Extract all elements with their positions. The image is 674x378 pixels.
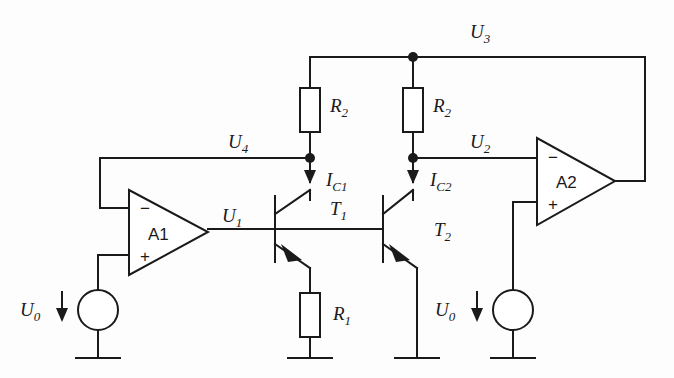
- transistor-t2: [383, 190, 417, 358]
- a2-minus-sign: −: [548, 148, 558, 167]
- a1-label: A1: [148, 225, 169, 244]
- node-u3: [408, 52, 418, 62]
- a2-plus-sign: +: [548, 195, 558, 214]
- label-u0-left: U0: [20, 299, 41, 324]
- label-u4: U4: [228, 131, 249, 156]
- label-ic1: IC1: [325, 169, 348, 194]
- a2-label: A2: [556, 173, 577, 192]
- current-arrow-ic2: [407, 158, 419, 184]
- label-r1: R1: [332, 303, 351, 328]
- current-arrow-ic1: [304, 158, 316, 184]
- label-t1: T1: [330, 198, 347, 223]
- voltage-source-u0-left: [56, 290, 120, 358]
- a1-minus-sign: −: [140, 199, 150, 218]
- voltage-source-u0-right: [471, 290, 535, 358]
- a1-plus-sign: +: [140, 247, 150, 266]
- label-u0-right: U0: [435, 299, 456, 324]
- u2-net: [408, 153, 537, 163]
- circuit-schematic: − + A1 − + A2: [0, 0, 674, 378]
- resistor-r2-left: [300, 88, 320, 158]
- resistor-r1: [300, 293, 320, 358]
- label-u3: U3: [470, 21, 491, 46]
- label-u2: U2: [470, 131, 491, 156]
- label-r2-right: R2: [432, 95, 452, 120]
- circuit-diagram-canvas: − + A1 − + A2: [0, 0, 674, 378]
- u3-top-rail: [310, 52, 645, 181]
- label-r2-left: R2: [329, 95, 349, 120]
- label-ic2: IC2: [429, 169, 452, 194]
- opamp-a2: − + A2: [513, 138, 645, 290]
- opamp-a1: − + A1: [98, 190, 208, 290]
- label-u1: U1: [222, 205, 242, 230]
- label-t2: T2: [434, 219, 452, 244]
- resistor-r2-right: [403, 88, 423, 158]
